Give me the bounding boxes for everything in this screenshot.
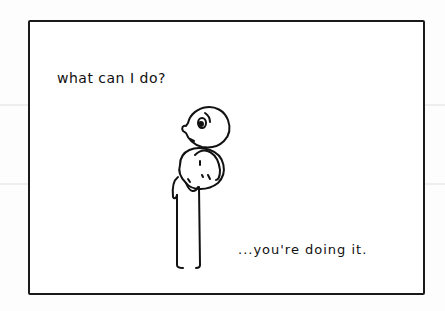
hugging-figure-icon — [150, 95, 240, 275]
caption-question: what can I do? — [57, 70, 166, 86]
caption-answer: ...you're doing it. — [238, 242, 367, 257]
